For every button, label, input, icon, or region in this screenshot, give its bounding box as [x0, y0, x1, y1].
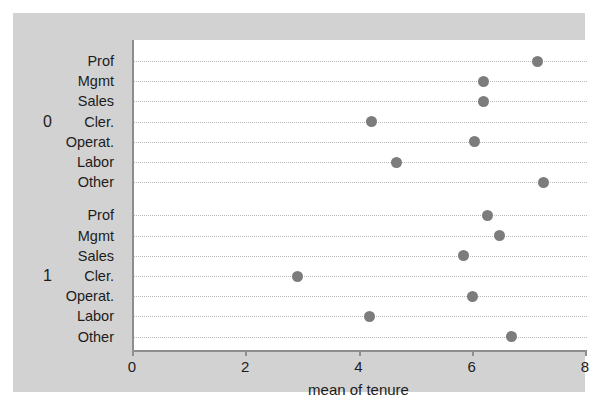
y-axis-tick-label: Cler. [14, 268, 114, 284]
graph-region: ProfMgmtSalesCler.Operat.LaborOtherProfM… [13, 13, 585, 392]
gridline [134, 236, 587, 237]
x-axis-tick [132, 350, 134, 356]
gridline [134, 101, 587, 102]
x-axis-tick-label: 2 [241, 358, 249, 375]
data-point [506, 331, 517, 342]
gridline [134, 182, 587, 183]
y-axis-tick-label: Other [14, 329, 114, 345]
data-point [494, 230, 505, 241]
y-axis-tick-label: Mgmt [14, 73, 114, 89]
y-axis-tick-label: Cler. [14, 114, 114, 130]
data-point [458, 250, 469, 261]
data-point [482, 210, 493, 221]
data-point [538, 177, 549, 188]
data-point [469, 136, 480, 147]
y-axis-tick-label: Sales [14, 248, 114, 264]
y-axis-category-labels: ProfMgmtSalesCler.Operat.LaborOtherProfM… [13, 40, 114, 350]
plot-area [132, 40, 587, 350]
group-label-0: 0 [43, 113, 52, 131]
x-axis-tick [245, 350, 247, 356]
gridline [134, 81, 587, 82]
gridline [134, 316, 587, 317]
chart-screenshot: ProfMgmtSalesCler.Operat.LaborOtherProfM… [0, 0, 593, 402]
data-point [467, 291, 478, 302]
x-axis-tick [359, 350, 361, 356]
group-label-1: 1 [43, 267, 52, 285]
gridline [134, 142, 587, 143]
y-axis-tick-label: Other [14, 174, 114, 190]
gridline [134, 276, 587, 277]
data-point [478, 96, 489, 107]
gridline [134, 296, 587, 297]
data-point [532, 56, 543, 67]
x-axis-tick-label: 6 [468, 358, 476, 375]
x-axis-tick [585, 350, 587, 356]
y-axis-tick-label: Prof [14, 207, 114, 223]
data-point [391, 157, 402, 168]
data-point [364, 311, 375, 322]
gridline [134, 122, 587, 123]
data-point [478, 76, 489, 87]
gridline [134, 61, 587, 62]
y-axis-tick-label: Sales [14, 93, 114, 109]
y-axis-tick-label: Labor [14, 154, 114, 170]
data-point [366, 116, 377, 127]
y-axis-tick-label: Mgmt [14, 228, 114, 244]
gridline [134, 162, 587, 163]
y-axis-tick-label: Operat. [14, 288, 114, 304]
x-axis-tick-label: 4 [354, 358, 362, 375]
x-axis-tick-label: 0 [128, 358, 136, 375]
x-axis-tick [472, 350, 474, 356]
y-axis-tick-label: Prof [14, 53, 114, 69]
x-axis-title: mean of tenure [132, 381, 585, 398]
data-point [292, 271, 303, 282]
gridline [134, 337, 587, 338]
gridline [134, 215, 587, 216]
gridline [134, 256, 587, 257]
y-axis-tick-label: Labor [14, 308, 114, 324]
y-axis-tick-label: Operat. [14, 134, 114, 150]
x-axis-tick-label: 8 [581, 358, 589, 375]
